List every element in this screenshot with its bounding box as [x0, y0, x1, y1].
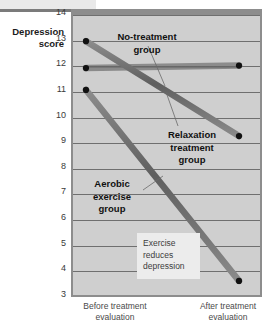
aerobic-label: Aerobic exercise group [76, 178, 148, 216]
x-axis-label-before-line1: Before treatment [72, 301, 158, 312]
x-axis-label-before: Before treatment evaluation [72, 301, 158, 323]
y-tick-label: 5 [48, 239, 66, 248]
gridline [73, 92, 260, 93]
relaxation-label-line3: group [152, 154, 232, 167]
callout-line3: depression [143, 261, 195, 273]
y-tick-label: 4 [48, 264, 66, 273]
x-axis-label-after: After treatment evaluation [186, 301, 270, 323]
aerobic-label-line1: Aerobic [76, 178, 148, 191]
y-tick-label: 10 [48, 111, 66, 120]
relaxation-label-line2: treatment [152, 142, 232, 155]
aerobic-label-line3: group [76, 203, 148, 216]
callout-line1: Exercise [143, 238, 195, 250]
callout-line2: reduces [143, 250, 195, 262]
no-treatment-label-line2: group [104, 44, 190, 57]
gridline [73, 220, 260, 221]
gridline [73, 169, 260, 170]
no-treatment-label-line1: No-treatment [104, 31, 190, 44]
y-tick-label: 14 [48, 8, 66, 17]
y-tick-label: 6 [48, 213, 66, 222]
x-axis-label-after-line1: After treatment [186, 301, 270, 312]
gridline [73, 118, 260, 119]
aerobic-label-line2: exercise [76, 191, 148, 204]
relaxation-label-line1: Relaxation [152, 129, 232, 142]
y-tick-label: 9 [48, 136, 66, 145]
y-tick-label: 7 [48, 187, 66, 196]
y-tick-label: 11 [48, 85, 66, 94]
y-tick-label: 3 [48, 290, 66, 299]
y-axis-tick-labels: 14131211109876543 [44, 9, 66, 297]
x-axis-label-before-line2: evaluation [72, 312, 158, 323]
chart-figure: Depression score 14131211109876543 No-tr… [0, 0, 274, 335]
no-treatment-label: No-treatment group [104, 31, 190, 56]
conclusion-callout: Exercise reduces depression [137, 233, 200, 279]
y-tick-label: 8 [48, 162, 66, 171]
y-tick-label: 12 [48, 59, 66, 68]
gridline [73, 66, 260, 67]
gridline [73, 15, 260, 16]
x-axis-label-after-line2: evaluation [186, 312, 270, 323]
relaxation-label: Relaxation treatment group [152, 129, 232, 167]
y-tick-label: 13 [48, 34, 66, 43]
